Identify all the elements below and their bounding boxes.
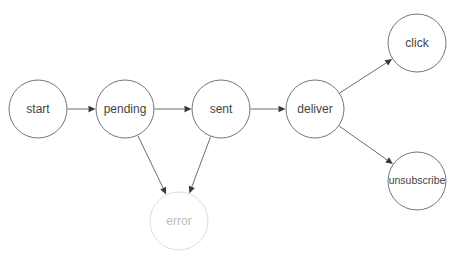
node-sent[interactable]: sent [192,80,250,138]
node-label: click [405,36,429,50]
node-label: start [26,102,50,116]
node-unsubscribe[interactable]: unsubscribe [388,152,446,210]
edge-line [138,136,163,189]
edge-pending-error [138,136,166,195]
edge-pending-sent [155,106,192,112]
arrowhead-icon [279,106,286,112]
arrowhead-icon [185,106,192,112]
node-click[interactable]: click [388,14,446,72]
node-label: deliver [297,102,332,116]
node-label: error [166,214,191,228]
node-label: sent [210,102,233,116]
arrowhead-icon [385,59,393,65]
state-diagram-canvas: startpendingsentdeliverclickunsubscribee… [0,0,454,260]
node-start[interactable]: start [9,80,67,138]
arrowhead-icon [385,157,393,164]
arrowhead-icon [89,106,96,112]
edge-sent-error [189,137,211,194]
edge-deliver-click [340,59,392,93]
node-deliver[interactable]: deliver [286,80,344,138]
edge-sent-deliver [251,106,286,112]
edge-start-pending [68,106,96,112]
edge-deliver-unsubscribe [339,126,393,164]
edge-line [340,63,387,93]
node-label: unsubscribe [389,174,446,186]
edge-line [192,137,211,187]
node-pending[interactable]: pending [96,80,154,138]
state-diagram-svg: startpendingsentdeliverclickunsubscribee… [0,0,454,260]
arrowhead-icon [189,186,195,194]
node-label: pending [104,102,147,116]
edge-line [339,126,387,160]
node-error[interactable]: error [150,192,208,250]
node-layer: startpendingsentdeliverclickunsubscribee… [9,14,446,250]
